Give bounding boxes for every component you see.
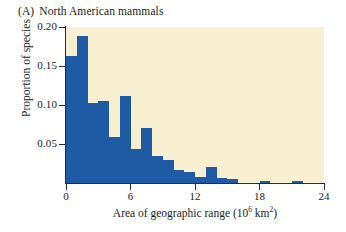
histogram-bar <box>206 167 217 183</box>
histogram-bar <box>66 56 77 183</box>
histogram-bar <box>141 128 152 183</box>
x-axis-tick-label: 18 <box>245 191 275 202</box>
x-axis-title-main: Area of geographic range (10 <box>113 207 248 219</box>
x-axis-tick-label: 6 <box>116 191 146 202</box>
y-axis-title: Proportion of species <box>20 0 32 143</box>
x-axis-title-mid: km <box>252 207 270 219</box>
y-axis-tick <box>59 144 65 145</box>
histogram-bar <box>109 137 120 183</box>
plot-frame <box>66 27 324 183</box>
x-axis-tick-label: 24 <box>309 191 339 202</box>
x-axis-title: Area of geographic range (106 km2) <box>66 207 324 220</box>
y-axis-line <box>65 26 66 184</box>
histogram-bar <box>98 101 109 183</box>
histogram-bar <box>184 172 195 183</box>
panel-title: North American mammals <box>39 5 163 17</box>
x-axis-tick-label: 12 <box>180 191 210 202</box>
histogram-bar <box>120 96 131 183</box>
y-axis-tick <box>59 66 65 67</box>
histogram-bar <box>131 149 142 183</box>
figure-panel-a: (A)North American mammals 0.200.150.100.… <box>0 0 346 232</box>
histogram-bar <box>88 103 99 183</box>
x-axis-title-end: ) <box>273 207 277 219</box>
histogram-bars <box>66 27 324 183</box>
x-axis-tick-label: 0 <box>51 191 81 202</box>
histogram-bar <box>163 160 174 183</box>
y-axis-tick <box>59 105 65 106</box>
histogram-bar <box>174 170 185 183</box>
histogram-bar <box>152 156 163 183</box>
y-axis-tick <box>59 27 65 28</box>
histogram-bar <box>77 36 88 183</box>
